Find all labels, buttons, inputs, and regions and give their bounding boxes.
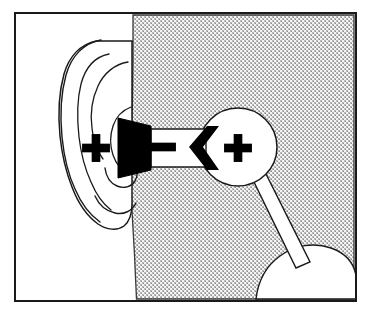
minus-sign-channel — [148, 143, 176, 152]
minus-sign-channel-horizontal-bar — [148, 143, 176, 152]
figure-canvas: Headset acoustic polarity diagram Line-a… — [0, 0, 373, 317]
plus-sign-ear-vertical-bar — [92, 134, 101, 162]
plus-sign-microphone-vertical-bar — [234, 134, 243, 162]
earpiece-transducer — [118, 118, 151, 178]
headset-diagram — [0, 0, 373, 317]
